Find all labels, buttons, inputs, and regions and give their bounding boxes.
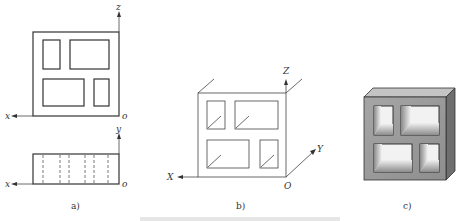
panel-a-top-view (11, 133, 121, 186)
three-view-diagram: z x o y x o a) (0, 0, 462, 221)
label-o-top: o (122, 179, 128, 189)
x-arrow-icon (11, 182, 17, 186)
panel-c-shaded-block (364, 88, 455, 180)
label-Z: Z (282, 66, 290, 76)
label-y: y (115, 124, 122, 134)
caption-b: b) (236, 201, 245, 211)
top-outline (33, 154, 119, 184)
front-outline (33, 32, 119, 116)
c-opening-top-right (401, 106, 439, 135)
label-O: O (284, 181, 292, 191)
label-z: z (115, 2, 121, 12)
label-X: X (166, 172, 174, 182)
X-arrow-icon (177, 175, 183, 179)
opening-bottom-right (94, 79, 109, 106)
opening-top-right (70, 40, 109, 69)
label-Y: Y (317, 144, 324, 154)
x-arrow-icon (11, 114, 17, 118)
c-opening-top-left (374, 106, 393, 135)
panel-a-front-view (11, 11, 121, 118)
c-opening-bottom-left (374, 144, 412, 172)
c-opening-bottom-right (420, 144, 439, 172)
opening-top-left (43, 40, 60, 69)
label-o-front: o (122, 111, 128, 121)
panel-b-axonometric (177, 79, 316, 179)
figure-caption-cropped (140, 217, 340, 221)
label-x-front: x (5, 111, 10, 121)
label-x-top: x (5, 179, 10, 189)
opening-bottom-left (43, 79, 84, 106)
Z-arrow-icon (284, 79, 288, 85)
caption-a: a) (71, 201, 80, 211)
caption-c: c) (403, 201, 412, 211)
